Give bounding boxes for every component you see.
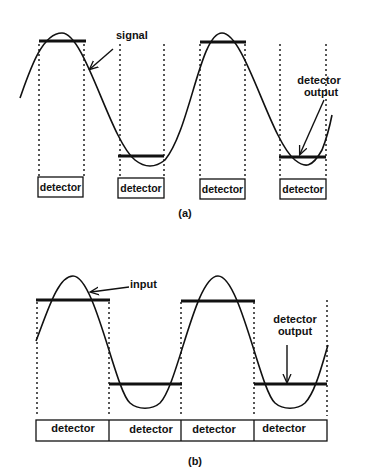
signal-label: signal (116, 29, 148, 41)
detector-output-label-line2: output (278, 325, 313, 337)
detector-output-arrow (300, 100, 324, 154)
detector-label: detector (51, 422, 95, 434)
detector-label: detector (120, 182, 161, 194)
detector-boxes-b: detector detector detector detector (36, 420, 327, 441)
input-waveform (36, 276, 328, 408)
detector-label: detector (262, 422, 306, 434)
signal-waveform (20, 33, 332, 166)
detector-sampling-diagram: signal detector output detector detector… (0, 0, 376, 472)
panel-a: signal detector output detector detector… (20, 29, 341, 219)
detector-output-label-line1: detector (297, 74, 341, 86)
detector-boxes-a: detector detector detector detector (38, 177, 326, 199)
detector-label: detector (282, 183, 323, 195)
caption-a: (a) (178, 207, 192, 219)
panel-b: input detector output detector detector … (36, 276, 328, 467)
input-arrow (91, 287, 129, 292)
input-label: input (130, 278, 157, 290)
detector-label: detector (192, 423, 236, 435)
detector-label: detector (40, 181, 81, 193)
caption-b: (b) (188, 455, 202, 467)
signal-arrow (90, 49, 113, 69)
detector-label: detector (202, 183, 243, 195)
detector-output-label-line2: output (304, 86, 339, 98)
detector-output-label-line1: detector (273, 313, 317, 325)
detector-label: detector (129, 423, 173, 435)
detector-output-bars (39, 41, 326, 157)
